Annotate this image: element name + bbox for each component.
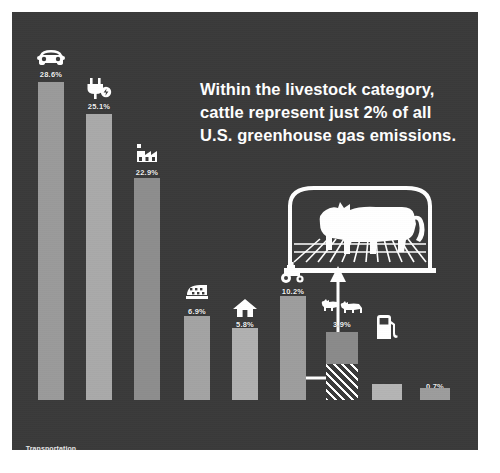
- bar-fill: [420, 388, 450, 400]
- bar-fill: [372, 384, 402, 400]
- house-icon: [232, 298, 258, 322]
- commercial-building-icon: [184, 282, 210, 308]
- bar-value-ag-livestock: 3.9%: [333, 320, 351, 329]
- bar-ag-livestock[interactable]: [326, 332, 358, 400]
- bar-value-industry: 22.9%: [136, 168, 158, 177]
- bar-fill: [38, 82, 64, 400]
- bar-industry[interactable]: [134, 178, 160, 400]
- bar-transportation[interactable]: [38, 82, 64, 400]
- tractor-icon: [278, 262, 308, 288]
- infographic-root: Within the livestock category, cattle re…: [0, 0, 500, 473]
- bar-value-ag-crops: 10.2%: [282, 287, 304, 296]
- car-icon: [37, 48, 65, 72]
- bar-group-ag-crops[interactable]: 10.2% Ag-Crops: [280, 268, 306, 400]
- bar-label-transportation: Transportation: [21, 444, 81, 450]
- bar-chart: 28.6% Transportation 25.1%: [12, 12, 478, 450]
- bar-group-transportation[interactable]: 28.6% Transportation: [38, 52, 64, 400]
- bar-value-electricity-generation: 25.1%: [88, 102, 110, 111]
- bar-group-industry[interactable]: 22.9% Industry: [134, 148, 160, 400]
- bar-group-ag-livestock[interactable]: 3.9% Ag-Livestock: [326, 304, 358, 400]
- bar-cattle-portion-hatch: [326, 364, 358, 400]
- fuel-pump-icon: [374, 314, 400, 346]
- bar-group-commercial[interactable]: 6.9% Commercial: [184, 288, 210, 400]
- bar-fill: [86, 114, 112, 400]
- bar-us-territories[interactable]: [420, 388, 450, 400]
- bar-group-electricity-generation[interactable]: 25.1% Electricity generation: [86, 82, 112, 400]
- bar-value-transportation: 28.6%: [40, 70, 62, 79]
- bar-ag-crops[interactable]: [280, 296, 306, 400]
- bar-group-ag-fuels[interactable]: 0.8% Ag-Fuels: [372, 342, 402, 400]
- plug-icon: [86, 78, 112, 104]
- bar-commercial[interactable]: [184, 316, 210, 400]
- bar-fill: [232, 328, 258, 400]
- infographic-panel: Within the livestock category, cattle re…: [12, 12, 478, 450]
- bar-fill: [184, 316, 210, 400]
- bar-electricity-generation[interactable]: [86, 114, 112, 400]
- bar-ag-fuels[interactable]: [372, 384, 402, 400]
- bar-fill: [280, 296, 306, 400]
- bar-group-residential[interactable]: 5.8% Residential: [232, 302, 258, 400]
- bar-group-us-territories[interactable]: 0.7% U.S. territories: [420, 356, 450, 400]
- bar-value-commercial: 6.9%: [188, 307, 206, 316]
- factory-icon: [134, 142, 160, 168]
- bar-fill: [134, 178, 160, 400]
- cattle-icon: [320, 298, 364, 320]
- bar-residential[interactable]: [232, 328, 258, 400]
